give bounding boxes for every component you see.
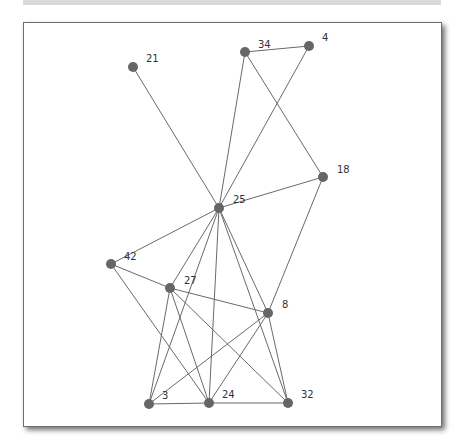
- node-8[interactable]: [263, 308, 273, 318]
- node-label-8: 8: [282, 299, 288, 310]
- node-18[interactable]: [318, 172, 328, 182]
- edge-25-3: [149, 208, 219, 404]
- node-label-24: 24: [222, 389, 235, 400]
- node-label-27: 27: [184, 275, 197, 286]
- node-label-42: 42: [124, 251, 137, 262]
- node-label-3: 3: [162, 390, 168, 401]
- node-25[interactable]: [214, 203, 224, 213]
- node-27[interactable]: [165, 283, 175, 293]
- node-42[interactable]: [106, 259, 116, 269]
- edge-25-24: [209, 208, 219, 403]
- edge-18-8: [268, 177, 323, 313]
- edge-25-8: [219, 208, 268, 313]
- node-label-32: 32: [301, 389, 314, 400]
- node-label-21: 21: [146, 53, 159, 64]
- edge-27-3: [149, 288, 170, 404]
- edge-34-4: [245, 46, 309, 52]
- edge-27-32: [170, 288, 288, 403]
- node-label-25: 25: [233, 194, 246, 205]
- labels-layer: 2134418254227832432: [124, 32, 350, 401]
- edge-34-18: [245, 52, 323, 177]
- edge-8-32: [268, 313, 288, 403]
- edge-27-8: [170, 288, 268, 313]
- node-label-4: 4: [322, 32, 328, 43]
- edge-27-24: [170, 288, 209, 403]
- edge-21-25: [133, 67, 219, 208]
- node-4[interactable]: [304, 41, 314, 51]
- node-label-34: 34: [258, 39, 271, 50]
- edge-25-32: [219, 208, 288, 403]
- node-32[interactable]: [283, 398, 293, 408]
- node-34[interactable]: [240, 47, 250, 57]
- network-graph: 2134418254227832432: [0, 0, 461, 445]
- node-24[interactable]: [204, 398, 214, 408]
- nodes-layer: [106, 41, 328, 409]
- node-3[interactable]: [144, 399, 154, 409]
- node-21[interactable]: [128, 62, 138, 72]
- edges-layer: [111, 46, 323, 404]
- edge-3-24: [149, 403, 209, 404]
- node-label-18: 18: [337, 164, 350, 175]
- edge-8-24: [209, 313, 268, 403]
